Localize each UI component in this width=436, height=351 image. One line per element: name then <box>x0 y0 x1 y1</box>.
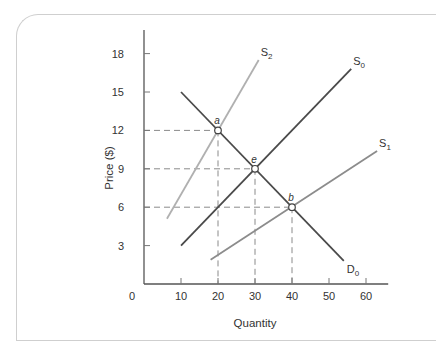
x-tick-label: 30 <box>249 290 261 302</box>
y-tick-label: 18 <box>112 48 124 60</box>
series-lines <box>167 60 377 261</box>
x-tick-label: 0 <box>129 290 135 302</box>
x-tick-label: 40 <box>286 290 298 302</box>
point-label-a: a <box>214 115 220 126</box>
y-tick-label: 9 <box>118 163 124 175</box>
point-label-e: e <box>251 154 257 165</box>
y-axis-title: Price ($) <box>103 146 115 190</box>
line-d0 <box>181 92 344 261</box>
y-tick-label: 15 <box>112 86 124 98</box>
y-tick-label: 12 <box>112 124 124 136</box>
y-tick-label: 3 <box>118 240 124 252</box>
point-e <box>252 166 259 173</box>
point-b <box>289 204 296 211</box>
point-a <box>215 127 222 134</box>
x-tick-label: 50 <box>323 290 335 302</box>
x-axis-title: Quantity <box>234 317 277 329</box>
x-tick-label: 20 <box>212 290 224 302</box>
label-s1: S1 <box>379 137 391 152</box>
label-d0: D0 <box>347 263 360 278</box>
x-tick-label: 10 <box>175 290 187 302</box>
axis-labels: 3691215180102030405060QuantityPrice ($)D… <box>103 46 391 329</box>
line-s0 <box>181 69 351 246</box>
label-s0: S0 <box>353 55 365 70</box>
x-tick-label: 60 <box>360 290 372 302</box>
y-tick-label: 6 <box>118 201 124 213</box>
label-s2: S2 <box>261 46 273 61</box>
line-s2 <box>167 60 259 219</box>
point-label-b: b <box>288 192 294 203</box>
